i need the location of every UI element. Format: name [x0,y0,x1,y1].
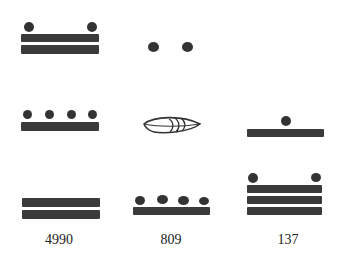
bar [21,45,99,54]
bar [21,34,99,42]
bar [247,129,324,137]
label-809: 809 [161,232,182,248]
label-4990: 4990 [45,232,73,248]
dot [311,173,321,182]
bar [22,210,100,219]
dot [182,42,193,52]
dot [67,110,76,119]
maya-numerals-figure: 4990 809 137 [0,0,341,262]
dot [157,195,168,204]
dot [88,110,97,119]
bar [21,122,99,131]
shell-zero-icon [142,115,202,137]
dot [87,22,97,32]
bar [247,185,322,193]
dot [248,173,258,183]
dot [135,196,145,205]
dot [281,116,291,126]
dot [45,110,54,119]
dot [148,42,159,52]
bar [247,196,322,204]
dot [24,22,34,32]
dot [199,197,209,205]
bar [22,198,100,207]
dot [23,110,32,119]
bar [133,207,210,215]
bar [247,207,322,215]
label-137: 137 [278,232,299,248]
dot [178,196,189,205]
